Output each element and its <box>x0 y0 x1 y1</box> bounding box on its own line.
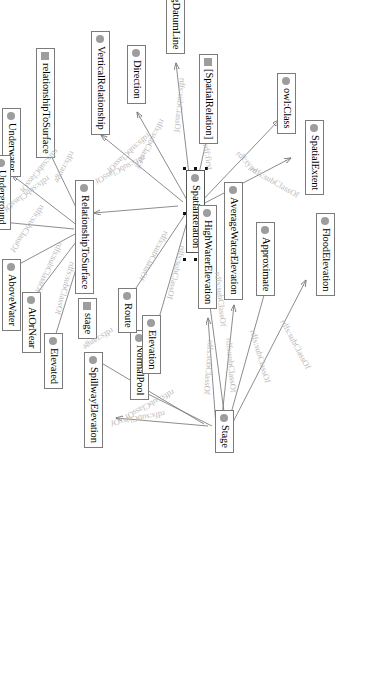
node-owl-class[interactable]: owl:Class <box>277 73 296 134</box>
node-label: Direction <box>131 60 142 99</box>
node-label: AtOrNear <box>26 307 37 348</box>
node-spillway-elevation[interactable]: SpillwayElevation <box>84 352 103 448</box>
node-label: Elevation <box>146 330 157 369</box>
node-spatial-extent[interactable]: SpatialExtent <box>305 120 324 195</box>
node-above-water[interactable]: AboveWater <box>2 259 21 331</box>
node-label: RelationshipToSurface <box>79 195 90 289</box>
node-direction[interactable]: Direction <box>127 45 146 104</box>
node-label: AverageWaterElevation <box>228 197 239 295</box>
class-circle-icon <box>311 124 319 132</box>
node-label: VerticalRelationship <box>95 46 106 130</box>
node-stage[interactable]: Stage <box>215 410 234 453</box>
property-square-icon <box>205 58 213 66</box>
class-circle-icon <box>230 186 238 194</box>
node-approximate[interactable]: Approximate <box>256 222 275 296</box>
node-label: SpatialExtent <box>309 135 320 190</box>
node-relationship-to-surface-property[interactable]: relationshipToSurface <box>36 48 55 158</box>
node-stage-property[interactable]: stage <box>78 298 97 339</box>
diagram-canvas: SpatialExtent owl:Class [SpatialRelation… <box>0 0 384 674</box>
node-flood-elevation[interactable]: FloodElevation <box>316 213 335 296</box>
node-label: FloodElevation <box>320 228 331 291</box>
node-label: owl:Class <box>281 88 292 129</box>
node-relationship-to-surface[interactable]: RelationshipToSurface <box>75 180 94 294</box>
class-circle-icon <box>322 217 330 225</box>
node-label: SoundingDatumLine <box>170 0 181 49</box>
class-circle-icon <box>148 319 156 327</box>
node-label: Elevated <box>48 348 59 384</box>
class-circle-icon <box>90 356 98 364</box>
node-label: Underground <box>0 170 7 225</box>
class-circle-icon <box>28 296 36 304</box>
node-spatial-relation-list[interactable]: [SpatialRelation] <box>199 54 218 144</box>
node-high-water-elevation[interactable]: HighWaterElevation <box>198 205 217 309</box>
node-label: SpillwayElevation <box>88 367 99 443</box>
property-square-icon <box>84 302 92 310</box>
class-circle-icon <box>192 174 200 182</box>
class-circle-icon <box>50 337 58 345</box>
node-label: [SpatialRelation] <box>203 69 214 139</box>
graph-surface[interactable]: SpatialExtent owl:Class [SpatialRelation… <box>0 0 384 674</box>
class-circle-icon <box>124 292 132 300</box>
class-circle-icon <box>97 35 105 43</box>
class-circle-icon <box>81 184 89 192</box>
node-at-or-near[interactable]: AtOrNear <box>22 292 41 353</box>
node-label: Stage <box>219 425 230 448</box>
node-label: Approximate <box>260 237 271 291</box>
node-sounding-datum-line[interactable]: SoundingDatumLine <box>166 0 185 54</box>
class-circle-icon <box>204 209 212 217</box>
property-square-icon <box>42 52 50 60</box>
node-label: AboveWater <box>6 274 17 326</box>
node-underground[interactable]: Underground <box>0 155 11 230</box>
node-average-water-elevation[interactable]: AverageWaterElevation <box>224 182 243 300</box>
node-route[interactable]: Route <box>118 288 137 333</box>
class-circle-icon <box>8 112 16 120</box>
node-elevation[interactable]: Elevation <box>142 315 161 374</box>
node-vertical-relationship[interactable]: VerticalRelationship <box>91 31 110 135</box>
class-circle-icon <box>0 159 6 167</box>
class-circle-icon <box>262 226 270 234</box>
node-elevated[interactable]: Elevated <box>44 333 63 389</box>
class-circle-icon <box>283 77 291 85</box>
node-label: stage <box>82 313 93 334</box>
node-label: HighWaterElevation <box>202 220 213 304</box>
node-label: relationshipToSurface <box>40 63 51 153</box>
class-circle-icon <box>8 263 16 271</box>
class-circle-icon <box>133 49 141 57</box>
node-label: Route <box>122 303 133 328</box>
class-circle-icon <box>221 414 229 422</box>
